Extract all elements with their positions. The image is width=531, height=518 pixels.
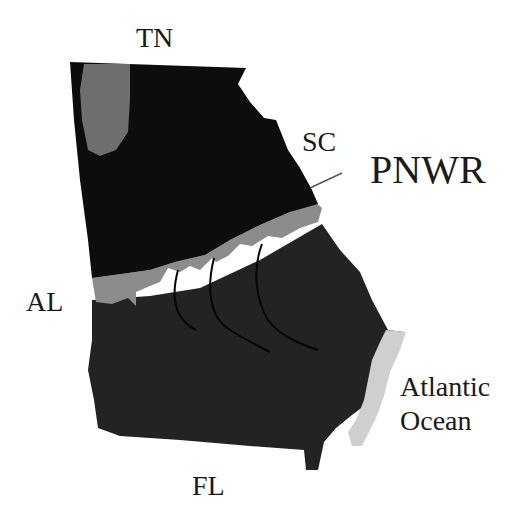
label-atlantic: Atlantic (400, 370, 490, 404)
label-pnwr: PNWR (370, 150, 486, 190)
georgia-map (0, 0, 531, 518)
label-florida: FL (192, 472, 225, 500)
label-tennessee: TN (136, 24, 173, 52)
label-ocean: Ocean (400, 404, 490, 438)
label-south-carolina: SC (302, 128, 336, 156)
label-alabama: AL (26, 288, 63, 316)
label-atlantic-ocean: Atlantic Ocean (400, 370, 490, 437)
pnwr-pointer-line (310, 173, 342, 188)
